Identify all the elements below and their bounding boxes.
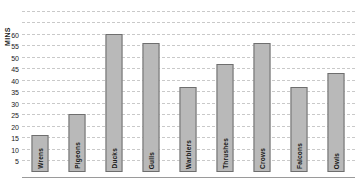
x-category-label: Crows xyxy=(259,148,266,169)
bar-slot: Crows xyxy=(244,0,281,178)
y-tick-label: 10 xyxy=(11,146,19,153)
bar-slot: Pigeons xyxy=(59,0,96,178)
y-tick-label: 30 xyxy=(11,100,19,107)
y-tick-label: 60 xyxy=(11,31,19,38)
x-category-label: Owls xyxy=(333,153,340,169)
bar[interactable]: Ducks xyxy=(106,34,123,172)
plot-area: 51015202530354045505560 WrensPigeonsDuck… xyxy=(22,0,355,178)
y-tick-label: 45 xyxy=(11,66,19,73)
x-category-label: Gulls xyxy=(148,152,155,169)
x-category-label: Warblers xyxy=(185,140,192,169)
x-category-label: Wrens xyxy=(37,148,44,169)
y-axis-title: MINS xyxy=(2,6,14,46)
x-category-label: Thrushes xyxy=(222,138,229,169)
bar-slot: Owls xyxy=(318,0,355,178)
y-tick-label: 15 xyxy=(11,135,19,142)
y-tick-label: 35 xyxy=(11,89,19,96)
y-tick-label: 20 xyxy=(11,123,19,130)
y-tick-label: 50 xyxy=(11,54,19,61)
bars-group: WrensPigeonsDucksGullsWarblersThrushesCr… xyxy=(22,0,355,178)
y-tick-label: 55 xyxy=(11,43,19,50)
y-tick-label: 25 xyxy=(11,112,19,119)
x-category-label: Pigeons xyxy=(74,142,81,169)
bar-slot: Gulls xyxy=(133,0,170,178)
y-tick-label: 5 xyxy=(15,158,19,165)
bar-slot: Wrens xyxy=(22,0,59,178)
bar-slot: Thrushes xyxy=(207,0,244,178)
x-axis-line xyxy=(22,177,355,178)
bar[interactable]: Falcons xyxy=(291,87,308,172)
y-tick-label: 40 xyxy=(11,77,19,84)
bar-slot: Falcons xyxy=(281,0,318,178)
x-category-label: Falcons xyxy=(296,143,303,169)
bar[interactable]: Wrens xyxy=(32,135,49,172)
bar[interactable]: Thrushes xyxy=(217,64,234,172)
bar[interactable]: Warblers xyxy=(180,87,197,172)
x-category-label: Ducks xyxy=(111,148,118,169)
bar-chart: MINS 51015202530354045505560 WrensPigeon… xyxy=(0,0,355,178)
bar-slot: Ducks xyxy=(96,0,133,178)
bar[interactable]: Crows xyxy=(254,43,271,172)
bar[interactable]: Pigeons xyxy=(69,114,86,172)
bar[interactable]: Owls xyxy=(328,73,345,172)
bar-slot: Warblers xyxy=(170,0,207,178)
bar[interactable]: Gulls xyxy=(143,43,160,172)
